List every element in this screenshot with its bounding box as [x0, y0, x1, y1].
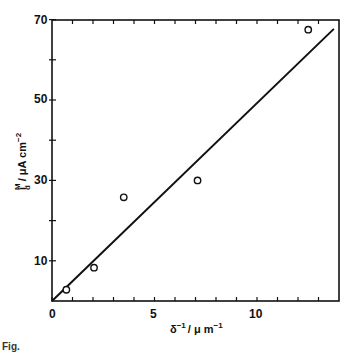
data-point-marker: [91, 264, 97, 270]
data-point-marker: [194, 177, 200, 183]
x-tick-label-5: 5: [150, 307, 157, 321]
y-tick-label-10: 10: [34, 254, 48, 268]
x-tick-label-10: 10: [249, 307, 263, 321]
svg-text:δ−1/ μ m−1: δ−1/ μ m−1: [170, 321, 223, 335]
fit-line: [52, 29, 334, 301]
data-point-marker: [121, 194, 127, 200]
y-tick-label-70: 70: [34, 13, 48, 27]
y-tick-label-30: 30: [34, 173, 48, 187]
x-tick-label-0: 0: [49, 307, 56, 321]
x-axis-ticks: [52, 20, 319, 301]
svg-text:idM/ μA cm−2: idM/ μA cm−2: [13, 132, 32, 190]
x-axis-label: δ−1/ μ m−1: [170, 321, 223, 335]
data-point-marker: [305, 26, 311, 32]
y-axis-label: idM/ μA cm−2: [13, 132, 32, 190]
figure-caption: Fig.: [2, 341, 20, 352]
regression-line: [52, 29, 334, 301]
data-point-marker: [63, 287, 69, 293]
y-tick-label-50: 50: [34, 92, 48, 106]
